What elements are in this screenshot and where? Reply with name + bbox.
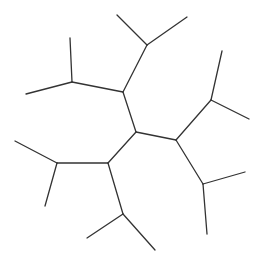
bond-line: [123, 214, 155, 250]
bond-line: [72, 82, 123, 92]
bond-line: [123, 92, 136, 132]
bond-line: [117, 15, 147, 45]
bond-line: [87, 214, 123, 238]
molecule-diagram: [0, 0, 262, 267]
bond-line: [147, 17, 187, 45]
bond-line: [108, 163, 123, 214]
bond-line: [203, 172, 245, 184]
bond-line: [123, 45, 147, 92]
bond-line: [108, 132, 136, 163]
bond-line: [203, 184, 207, 234]
bond-line: [176, 100, 211, 140]
bond-line: [211, 100, 249, 119]
bond-line: [15, 141, 57, 163]
bond-line: [136, 132, 176, 140]
bond-line: [45, 163, 57, 206]
bond-line: [176, 140, 203, 184]
bond-line: [211, 51, 222, 100]
bond-line: [26, 82, 72, 94]
bond-line: [70, 38, 72, 82]
